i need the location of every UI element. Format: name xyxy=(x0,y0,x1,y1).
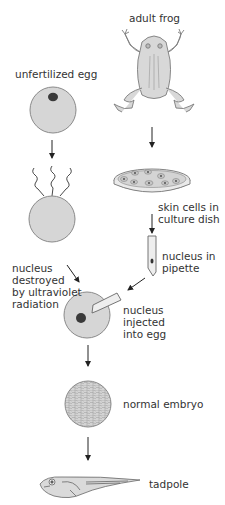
label-adult-frog: adult frog xyxy=(129,12,180,24)
arrow-pipette-to-injected xyxy=(128,278,145,290)
label-nucleus-in-pipette: nucleus in pipette xyxy=(162,250,216,274)
culture-dish-illustration xyxy=(114,169,190,192)
label-normal-embryo: normal embryo xyxy=(123,398,203,410)
tadpole-illustration xyxy=(40,477,140,498)
label-nucleus-destroyed: nucleus destroyed by ultraviolet radiati… xyxy=(12,262,82,310)
uv-radiation-icon xyxy=(33,166,72,196)
label-skin-cells: skin cells in culture dish xyxy=(158,201,220,225)
label-tadpole: tadpole xyxy=(149,478,189,490)
pipette-illustration xyxy=(148,236,156,276)
embryo-illustration xyxy=(65,381,111,427)
unfertilized-egg-illustration xyxy=(30,87,76,133)
adult-frog-illustration xyxy=(114,29,194,112)
enucleated-egg-illustration xyxy=(29,196,75,242)
label-nucleus-injected: nucleus injected into egg xyxy=(123,304,166,340)
label-unfertilized-egg: unfertilized egg xyxy=(15,68,97,80)
